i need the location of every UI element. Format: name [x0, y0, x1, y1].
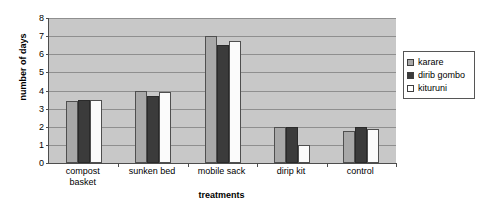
- plot-area: [48, 18, 396, 164]
- y-axis-tick-mark: [46, 163, 49, 164]
- gridline: [49, 36, 396, 37]
- bar-dirib-gombo-compost-basket: [78, 100, 90, 163]
- y-axis-tick-label: 5: [24, 67, 44, 77]
- legend-swatch-icon: [407, 59, 414, 66]
- bar-kituruni-dirip-kit: [298, 145, 310, 163]
- y-axis-tick-mark: [46, 54, 49, 55]
- y-axis-tick-label: 4: [24, 86, 44, 96]
- bar-karare-compost-basket: [66, 101, 78, 163]
- y-axis-tick-label: 2: [24, 122, 44, 132]
- x-axis-tick-mark: [396, 163, 397, 167]
- y-axis-tick-mark: [46, 36, 49, 37]
- gridline: [49, 18, 396, 19]
- y-axis-tick-mark: [46, 127, 49, 128]
- bar-dirib-gombo-control: [355, 127, 367, 163]
- legend-swatch-icon: [407, 85, 414, 92]
- y-axis-tick-label: 0: [24, 158, 44, 168]
- bar-dirib-gombo-dirip-kit: [286, 127, 298, 163]
- legend-item-dirib-gombo: dirib gombo: [407, 69, 471, 81]
- x-axis-category-label: control: [326, 166, 395, 177]
- y-axis-tick-label: 7: [24, 31, 44, 41]
- bar-karare-dirip-kit: [274, 127, 286, 163]
- bar-karare-mobile-sack: [205, 36, 217, 163]
- y-axis-tick-mark: [46, 18, 49, 19]
- bar-karare-control: [343, 131, 355, 163]
- x-axis-category-label: mobile sack: [187, 166, 256, 177]
- x-axis-category-label: sunken bed: [117, 166, 186, 177]
- chart-legend: kararedirib gombokituruni: [403, 51, 475, 99]
- y-axis-tick-label: 6: [24, 49, 44, 59]
- y-axis-tick-mark: [46, 109, 49, 110]
- legend-swatch-icon: [407, 72, 414, 79]
- y-axis-tick-labels: 012345678: [24, 13, 44, 163]
- bar-kituruni-compost-basket: [90, 100, 102, 163]
- x-axis-category-label: compost basket: [48, 166, 117, 188]
- legend-item-karare: karare: [407, 56, 471, 68]
- bar-karare-sunken-bed: [135, 91, 147, 164]
- bar-kituruni-control: [367, 129, 379, 163]
- bar-dirib-gombo-sunken-bed: [147, 96, 159, 163]
- y-axis-tick-label: 8: [24, 13, 44, 23]
- legend-item-kituruni: kituruni: [407, 82, 471, 94]
- y-axis-tick-label: 1: [24, 140, 44, 150]
- y-axis-tick-mark: [46, 145, 49, 146]
- legend-label: karare: [418, 57, 444, 67]
- bar-chart: number of days 012345678 compost baskets…: [0, 0, 481, 211]
- bar-kituruni-sunken-bed: [159, 92, 171, 163]
- legend-label: dirib gombo: [418, 70, 465, 80]
- x-axis-category-label: dirip kit: [256, 166, 325, 177]
- x-axis-title: treatments: [48, 190, 395, 200]
- legend-label: kituruni: [418, 83, 447, 93]
- y-axis-tick-label: 3: [24, 104, 44, 114]
- y-axis-tick-mark: [46, 72, 49, 73]
- y-axis-tick-mark: [46, 91, 49, 92]
- bar-kituruni-mobile-sack: [229, 41, 241, 163]
- bar-dirib-gombo-mobile-sack: [217, 45, 229, 163]
